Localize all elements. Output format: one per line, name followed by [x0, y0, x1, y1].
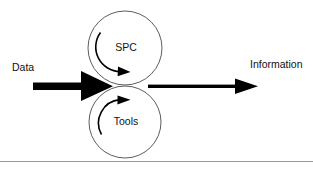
gear-label-spc: SPC [115, 41, 137, 53]
input-arrow-shaft [33, 83, 84, 91]
gear-node-spc: SPC [88, 11, 162, 85]
input-label-data: Data [12, 61, 34, 73]
clockwise-rotation-arrowhead [118, 67, 131, 77]
gear-node-tools: Tools [89, 86, 161, 158]
input-arrow-head [81, 71, 113, 101]
output-arrow-shaft [148, 85, 238, 88]
process-flow-diagram: SPC Tools Data Information [0, 0, 313, 170]
output-arrow [148, 79, 258, 95]
output-arrow-head [235, 79, 258, 95]
counter-clockwise-rotation-arrowhead [117, 95, 130, 104]
diagram-canvas: SPC Tools Data Information [0, 0, 313, 170]
output-label-information: Information [250, 58, 303, 70]
gear-label-tools: Tools [114, 115, 139, 127]
thick-input-arrow [33, 71, 113, 101]
